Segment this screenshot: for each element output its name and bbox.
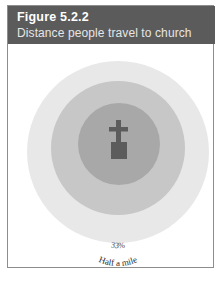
figure-frame: Figure 5.2.2 Distance people travel to c… [7,5,214,268]
figure-header: Figure 5.2.2 Distance people travel to c… [8,6,215,44]
chart-svg: 33% Half a mile 43% One half to two mile… [8,44,213,267]
concentric-rings-chart: 33% Half a mile 43% One half to two mile… [8,44,213,267]
figure-subtitle: Distance people travel to church [17,25,215,41]
label-half-a-mile-pct: 33% [110,240,125,250]
figure-title: Figure 5.2.2 [17,10,215,25]
label-half-a-mile-name: Half a mile [98,254,139,267]
